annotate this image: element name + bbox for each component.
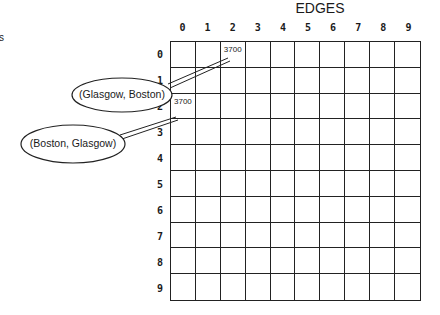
callout-lines: [0, 0, 440, 315]
callout-label-glasgow-boston: (Glasgow, Boston): [74, 88, 170, 100]
callout-label-boston-glasgow: (Boston, Glasgow): [22, 137, 124, 149]
callout-pointer-boston-glasgow: [120, 117, 178, 139]
callout-pointer-glasgow-boston: [168, 58, 230, 88]
